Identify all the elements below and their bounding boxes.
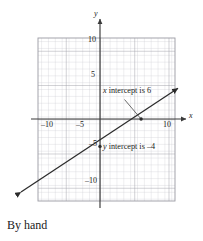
coordinate-plane [0,0,203,241]
y-tick-label-pos5: 5 [91,71,95,79]
y-tick-label-neg10: –10 [85,177,97,185]
y-axis-label: y [94,10,98,18]
y-tick-label-pos10: 10 [88,36,96,44]
x-tick-label-neg10: –10 [41,121,53,129]
graph-figure: –10 –5 10 10 5 –5 –10 x y x intercept is… [0,0,203,241]
x-tick-label-pos10: 10 [163,121,171,129]
x-tick-label-neg5: –5 [76,121,84,129]
y-intercept-annotation-text: intercept is –4 [107,142,155,151]
figure-caption: By hand [7,219,47,231]
x-intercept-annotation-text: intercept is 6 [107,86,151,95]
x-axis-label: x [189,112,193,120]
x-intercept-annotation: x intercept is 6 [103,87,151,95]
y-intercept-annotation: y intercept is –4 [103,143,155,151]
y-tick-label-neg5: –5 [89,140,97,148]
